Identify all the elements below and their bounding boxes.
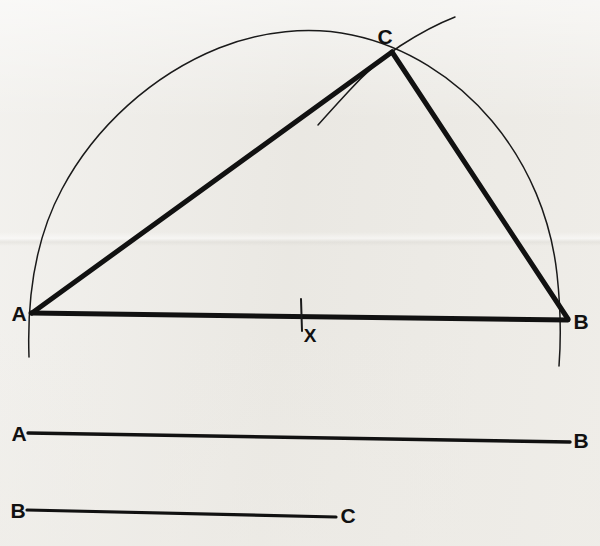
reference-bc-label-left: B [10, 499, 25, 522]
vertex-label-c: C [377, 25, 392, 48]
segment-ac [32, 52, 392, 313]
tick-mark-x [301, 299, 302, 331]
geometry-figure: A B C X A B B C [0, 0, 600, 546]
vertex-label-a: A [11, 302, 26, 325]
reference-segment-bc [27, 510, 336, 517]
diagram-sheet: A B C X A B B C [0, 0, 600, 546]
segment-cb [392, 52, 568, 319]
reference-ab-label-right: B [573, 429, 588, 452]
segment-ab-base [31, 313, 568, 320]
point-label-x: X [304, 325, 317, 346]
reference-bc-label-right: C [340, 504, 355, 527]
reference-ab-label-left: A [11, 422, 26, 445]
vertex-label-b: B [573, 310, 588, 333]
reference-segment-ab [28, 433, 570, 442]
